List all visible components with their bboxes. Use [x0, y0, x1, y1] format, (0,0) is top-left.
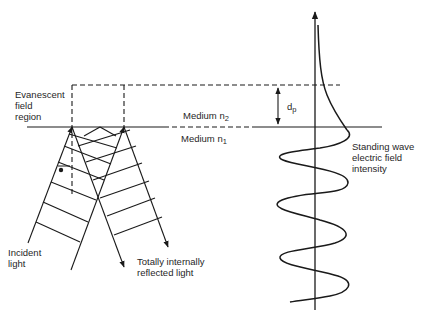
medium-n1-label: Medium n1: [181, 133, 227, 147]
dp-subscript: p: [292, 105, 296, 114]
label-line: intensity: [352, 163, 414, 174]
label-line: Incident: [8, 247, 41, 258]
incident-beam: [28, 127, 124, 270]
medium-n2-label: Medium n2: [183, 110, 229, 124]
evanescent-field-label: Evanescent field region: [15, 89, 65, 122]
label-line: electric field: [352, 152, 414, 163]
medium-n2-subscript: 2: [225, 114, 229, 123]
label-line: field: [15, 100, 65, 111]
medium-n2-text: Medium n: [183, 110, 225, 121]
label-line: Evanescent: [15, 89, 65, 100]
label-line: Standing wave: [352, 141, 414, 152]
label-line: light: [8, 258, 41, 269]
standing-wave-label: Standing wave electric field intensity: [352, 141, 414, 174]
medium-n1-text: Medium n: [181, 133, 223, 144]
standing-wave-curve: [277, 130, 349, 302]
label-line: reflected light: [137, 267, 205, 278]
reflected-beam: [72, 127, 168, 267]
reflected-light-label: Totally internally reflected light: [137, 256, 205, 278]
evanescent-decay-curve: [318, 25, 347, 130]
label-line: Totally internally: [137, 256, 205, 267]
incident-light-label: Incident light: [8, 247, 41, 269]
label-line: region: [15, 111, 65, 122]
penetration-depth-label: dp: [287, 101, 296, 115]
medium-n1-subscript: 1: [223, 137, 227, 146]
angle-marker-dot: [59, 168, 63, 172]
